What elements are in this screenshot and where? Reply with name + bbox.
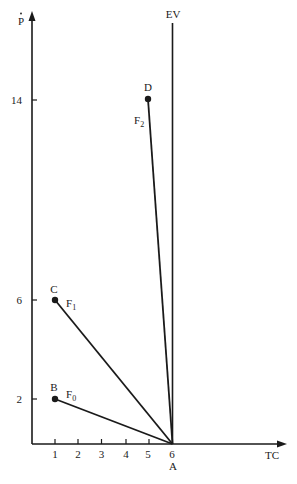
x-tick-label-1: 1 bbox=[52, 448, 58, 460]
ev-label: EV bbox=[166, 8, 181, 20]
y-tick-label-2: 2 bbox=[17, 393, 23, 405]
y-axis-arrow-icon bbox=[29, 11, 36, 21]
diagram: 14 6 2 1 2 3 4 5 6 A P EV TC B C D F0 F1… bbox=[0, 0, 297, 484]
y-axis-label: P bbox=[18, 15, 24, 27]
x-tick-label-4: 4 bbox=[123, 448, 129, 460]
x-tick-label-2: 2 bbox=[75, 448, 81, 460]
f1-label: F1 bbox=[66, 297, 76, 312]
y-tick-label-14: 14 bbox=[11, 94, 23, 106]
point-b bbox=[52, 396, 58, 402]
point-d-label: D bbox=[144, 81, 152, 93]
x-axis-label: TC bbox=[265, 449, 279, 461]
point-c bbox=[52, 297, 58, 303]
y-tick-label-6: 6 bbox=[17, 294, 23, 306]
f0-label: F0 bbox=[66, 388, 76, 403]
f2-label: F2 bbox=[134, 114, 144, 129]
x-tick-label-5: 5 bbox=[145, 448, 151, 460]
x-tick-label-3: 3 bbox=[99, 448, 105, 460]
x-axis-arrow-icon bbox=[277, 441, 287, 448]
point-d bbox=[145, 96, 151, 102]
p-dot-accent bbox=[20, 13, 22, 15]
x-tick-label-6: 6 bbox=[169, 448, 175, 460]
point-b-label: B bbox=[50, 381, 57, 393]
point-c-label: C bbox=[50, 283, 57, 295]
point-a-label: A bbox=[169, 460, 177, 472]
line-f2 bbox=[148, 99, 173, 444]
